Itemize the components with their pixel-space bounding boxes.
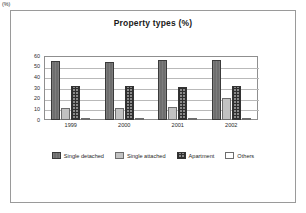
bar-group-2001	[151, 56, 205, 120]
bar-single-attached-2001	[168, 107, 177, 120]
x-axis-tick-label: 2001	[151, 122, 205, 128]
chart-title: Property types (%)	[0, 18, 306, 28]
bar-apartment-1999	[71, 86, 80, 120]
legend-item-single-attached[interactable]: Single attached	[115, 152, 166, 159]
plot-area-wrapper	[44, 56, 258, 120]
legend-item-others[interactable]: Others	[225, 152, 254, 159]
bar-others-2000	[135, 118, 144, 120]
bar-single-attached-2002	[222, 98, 231, 120]
legend-label-single-detached: Single detached	[64, 153, 104, 159]
y-axis-tick-label: 20	[34, 96, 40, 101]
bar-group-2002	[205, 56, 259, 120]
bar-others-2002	[242, 118, 251, 120]
x-axis-tick-label: 2000	[98, 122, 152, 128]
bar-apartment-2001	[178, 87, 187, 120]
legend-item-single-detached[interactable]: Single detached	[52, 152, 104, 159]
bar-single-detached-2000	[105, 62, 114, 120]
chart-legend: Single detachedSingle attachedApartmentO…	[0, 152, 306, 159]
y-axis-tick-label: 30	[34, 86, 40, 91]
y-axis-unit-label: (%)	[2, 2, 10, 7]
bar-groups	[44, 56, 258, 120]
bar-others-2001	[188, 118, 197, 120]
chart-screenshot: Property types (%) (%) 6050403020100 199…	[0, 0, 306, 213]
legend-swatch-others	[225, 152, 234, 159]
bar-apartment-2000	[125, 86, 134, 120]
legend-label-others: Others	[237, 153, 254, 159]
bar-single-detached-2001	[158, 60, 167, 120]
legend-swatch-apartment	[177, 152, 186, 159]
y-axis-tick-label: 60	[34, 54, 40, 59]
legend-label-single-attached: Single attached	[127, 153, 166, 159]
bar-single-detached-2002	[212, 60, 221, 120]
x-axis-tick-label: 1999	[44, 122, 98, 128]
x-axis: 1999200020012002	[44, 122, 258, 128]
bar-single-attached-2000	[115, 108, 124, 120]
legend-item-apartment[interactable]: Apartment	[177, 152, 215, 159]
y-axis-tick-label: 0	[37, 118, 40, 123]
y-axis: 6050403020100	[0, 52, 42, 124]
x-axis-tick-label: 2002	[205, 122, 259, 128]
bar-single-detached-1999	[51, 61, 60, 120]
y-axis-tick-label: 40	[34, 75, 40, 80]
bar-others-1999	[81, 118, 90, 120]
legend-label-apartment: Apartment	[189, 153, 215, 159]
bar-group-1999	[44, 56, 98, 120]
bar-apartment-2002	[232, 86, 241, 120]
y-axis-tick-label: 10	[34, 107, 40, 112]
bar-single-attached-1999	[61, 108, 70, 120]
legend-swatch-single-attached	[115, 152, 124, 159]
bar-group-2000	[98, 56, 152, 120]
y-axis-tick-label: 50	[34, 64, 40, 69]
legend-swatch-single-detached	[52, 152, 61, 159]
